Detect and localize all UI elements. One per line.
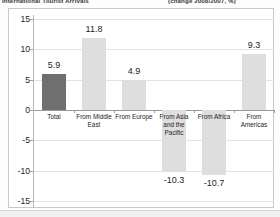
bar-value-label: 9.3 xyxy=(231,41,277,50)
y-axis-tick: 0 xyxy=(0,110,30,111)
x-axis-category-label: From Middle East xyxy=(75,113,113,129)
y-axis-tick: 15 xyxy=(0,19,30,20)
bar-value-label: 11.8 xyxy=(71,25,117,34)
y-axis-tick-mark xyxy=(30,80,33,81)
page-edge-line xyxy=(0,210,280,211)
y-axis-tick: -15 xyxy=(0,201,30,202)
x-axis-category-label: From Americas xyxy=(235,113,273,129)
y-axis-tick-mark xyxy=(30,140,33,141)
x-axis-category-label: From Asia and the Pacific xyxy=(155,113,193,138)
gridline xyxy=(34,201,274,202)
y-axis-tick: 5 xyxy=(0,80,30,81)
y-axis-tick-mark xyxy=(30,49,33,50)
bar xyxy=(122,80,146,110)
gridline xyxy=(34,80,274,81)
y-axis-tick-mark xyxy=(30,171,33,172)
y-axis-tick-label: -15 xyxy=(4,197,30,206)
gridline xyxy=(34,171,274,172)
bar xyxy=(82,38,106,110)
chart-subtitle: (change 2008/2007, %) xyxy=(168,0,236,4)
x-axis-category-label: From Europe xyxy=(115,113,153,121)
x-axis-category-label: Total xyxy=(35,113,73,121)
y-axis-tick-label: 5 xyxy=(4,76,30,85)
y-axis-line xyxy=(33,15,34,208)
y-axis-tick-label: 10 xyxy=(4,45,30,54)
gridline xyxy=(34,19,274,20)
y-axis-tick-label: -5 xyxy=(4,136,30,145)
bar xyxy=(242,54,266,110)
chart-header: International Tourist Arrivals (change 2… xyxy=(0,0,280,8)
chart-container: International Tourist Arrivals (change 2… xyxy=(0,0,280,217)
y-axis-tick-label: 0 xyxy=(4,106,30,115)
y-axis-tick-mark xyxy=(30,110,33,111)
x-axis-category-label: From Africa xyxy=(195,113,233,121)
page-edge-artifact xyxy=(0,210,280,217)
y-axis-tick-label: -10 xyxy=(4,167,30,176)
y-axis-tick-mark xyxy=(30,201,33,202)
y-axis-tick: -5 xyxy=(0,140,30,141)
y-axis-tick-mark xyxy=(30,19,33,20)
chart-title: International Tourist Arrivals xyxy=(2,0,89,4)
bar-value-label: -10.7 xyxy=(191,179,237,188)
y-axis-tick: -10 xyxy=(0,171,30,172)
gridline xyxy=(34,140,274,141)
y-axis-tick-label: 15 xyxy=(4,15,30,24)
bar xyxy=(42,74,66,110)
bar-value-label: 5.9 xyxy=(31,61,77,70)
y-axis-tick: 10 xyxy=(0,49,30,50)
x-axis-tick-mark xyxy=(274,110,275,113)
bar-value-label: 4.9 xyxy=(111,67,157,76)
